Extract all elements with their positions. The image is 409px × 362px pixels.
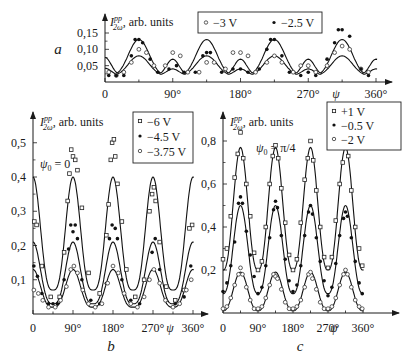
marker-open-circle [333,51,337,55]
marker-open-circle [239,266,243,270]
y-tick-label: 0,2 [201,263,216,277]
marker-open-circle [53,305,57,309]
marker-open-square [49,295,53,299]
marker-filled-circle [359,67,363,71]
marker-filled-circle [205,51,209,55]
marker-open-square [107,203,111,207]
x-tick-label: 0 [102,87,108,101]
x-axis-label: ψ [166,321,174,335]
marker-filled-circle [220,70,224,74]
marker-filled-circle [307,210,311,214]
marker-filled-circle [326,294,330,298]
marker-open-circle [129,61,133,65]
marker-open-circle [100,302,104,306]
marker-filled-circle [173,302,177,306]
marker-filled-circle [322,279,326,283]
legend: −3 V−2.5 V [198,12,322,33]
marker-open-circle [152,64,156,68]
marker-filled-circle [274,199,278,203]
marker-open-circle [254,70,258,74]
marker-filled-circle [89,299,93,303]
marker-open-square [138,119,141,122]
marker-filled-circle [280,234,284,238]
marker-open-circle [116,271,120,275]
marker-open-circle [248,298,252,302]
marker-open-circle [360,307,364,311]
marker-open-square [69,148,73,152]
marker-filled-circle [272,21,275,24]
marker-filled-circle [148,57,152,61]
marker-open-circle [189,278,193,282]
marker-open-square [165,285,169,289]
marker-open-circle [237,272,241,276]
x-tick-label: 0 [220,321,226,335]
marker-filled-circle [342,217,346,221]
marker-filled-circle [346,214,350,218]
marker-open-circle [291,70,295,74]
x-tick-label: 270° [142,321,165,335]
marker-open-square [125,268,129,272]
panel-label: a [54,41,62,57]
marker-filled-circle [309,204,313,208]
marker-filled-circle [189,264,193,268]
marker-open-circle [122,292,126,296]
marker-open-square [87,271,91,275]
marker-open-circle [280,61,284,65]
x-tick-label: 0 [30,321,36,335]
y-tick-label: 0,5 [11,136,26,150]
marker-open-square [295,257,299,261]
marker-open-square [109,158,113,162]
marker-filled-circle [241,202,245,206]
marker-open-square [315,189,319,193]
marker-open-square [241,156,245,160]
marker-open-square [346,154,350,158]
marker-open-circle [330,305,334,309]
marker-filled-circle [194,70,198,74]
marker-filled-circle [333,41,337,45]
marker-filled-circle [182,70,186,74]
x-tick-label: 90° [250,321,267,335]
marker-open-circle [142,295,146,299]
marker-filled-circle [330,285,334,289]
marker-filled-circle [130,54,134,58]
marker-filled-circle [299,264,303,268]
marker-filled-circle [239,67,243,71]
marker-filled-circle [268,236,272,240]
marker-open-square [274,144,278,148]
marker-open-circle [314,70,318,74]
marker-filled-circle [36,275,40,279]
marker-open-circle [158,281,162,285]
marker-filled-circle [360,292,364,296]
marker-open-circle [252,307,256,311]
marker-open-circle [340,44,344,48]
marker-open-square [76,168,80,172]
marker-filled-circle [258,67,262,71]
marker-open-circle [225,305,229,309]
y-tick-label: 0,1 [11,273,26,287]
marker-filled-circle [295,283,299,287]
marker-filled-circle [314,74,318,78]
marker-filled-circle [306,70,310,74]
marker-open-square [256,268,260,272]
marker-open-circle [244,285,248,289]
marker-open-circle [272,54,276,58]
y-axis-label: Ipp2ω, arb. units [39,114,104,132]
marker-open-circle [64,285,68,289]
marker-open-circle [295,305,299,309]
marker-open-circle [111,264,115,268]
x-tick-label: 270° [297,87,320,101]
marker-open-circle [283,300,287,304]
marker-open-square [148,209,152,213]
marker-open-square [318,225,322,229]
legend-label: −6 V [147,115,172,129]
y-tick-label: 0,3 [11,204,26,218]
marker-open-circle [279,287,283,291]
marker-filled-circle [231,67,235,71]
marker-open-square [225,247,229,251]
marker-open-square [299,221,303,225]
marker-open-circle [93,305,97,309]
marker-filled-circle [158,268,162,272]
marker-open-circle [265,61,269,65]
marker-open-square [303,178,307,182]
marker-filled-circle [150,251,154,255]
